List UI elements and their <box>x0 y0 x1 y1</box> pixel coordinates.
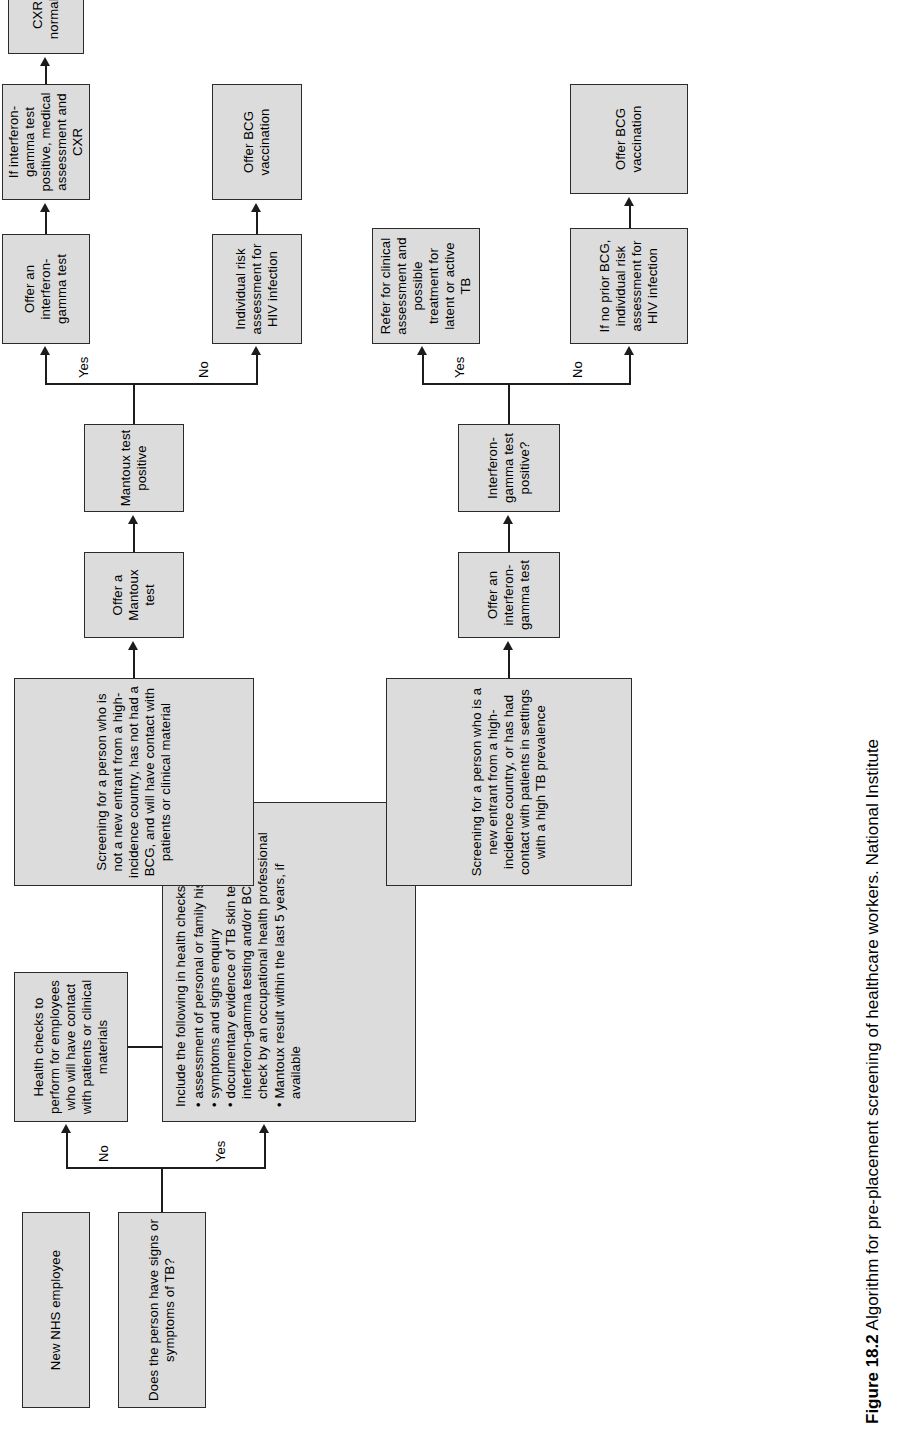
node-label: Offer BCG vaccination <box>613 89 645 189</box>
arrow-icon <box>128 515 138 524</box>
node-label: If interferon-gamma test positive, medic… <box>6 89 86 195</box>
edge-line <box>256 353 258 385</box>
edge-line <box>133 383 257 385</box>
node-label: Offer an interferon-gamma test <box>485 557 533 633</box>
node-label: Does the person have signs or symptoms o… <box>146 1217 178 1403</box>
arrow-icon <box>61 1124 71 1133</box>
node-if-no-prior-bcg: If no prior BCG, individual risk assessm… <box>570 228 688 344</box>
edge-label-yes: Yes <box>213 1139 228 1164</box>
arrow-icon <box>259 1124 269 1133</box>
arrow-icon <box>251 203 261 212</box>
arrow-icon <box>417 346 427 355</box>
edge-line <box>629 204 631 228</box>
node-label: New NHS employee <box>48 1217 64 1403</box>
edge-label-yes: Yes <box>452 355 467 380</box>
figure-caption: Figure 18.2 Algorithm for pre-placement … <box>862 24 883 1424</box>
edge-line <box>66 1131 68 1169</box>
node-label: Screening for a person who is a new entr… <box>469 683 549 881</box>
node-new-nhs-employee: New NHS employee <box>22 1212 90 1408</box>
node-offer-igra-top: Offer an interferon-gamma test <box>458 552 560 638</box>
edge-line <box>133 522 135 552</box>
node-label: Screening for a person who is not a new … <box>94 683 174 881</box>
edge-line <box>45 353 47 385</box>
node-label: CXR normal? <box>30 0 62 49</box>
figure-caption-label: Figure 18.2 <box>863 1334 882 1424</box>
arrow-icon <box>40 203 50 212</box>
node-label: Offer a Mantoux test <box>110 557 158 633</box>
edge-label-no: No <box>96 1143 111 1164</box>
node-label: Refer for clinical assessment and possib… <box>378 233 475 339</box>
arrow-icon <box>40 346 50 355</box>
arrow-icon <box>251 346 261 355</box>
node-igra-positive-question: Interferon-gamma test positive? <box>458 424 560 512</box>
node-label: Health checks to perform for employees w… <box>31 977 111 1117</box>
node-label: Offer an interferon-gamma test <box>22 239 70 339</box>
edge-line <box>422 383 509 385</box>
edge-line <box>422 353 424 385</box>
node-offer-mantoux-test: Offer a Mantoux test <box>84 552 184 638</box>
list-item: Mantoux result within the last 5 years, … <box>272 813 304 1107</box>
edge-line <box>128 1046 162 1048</box>
edge-line <box>133 648 135 678</box>
edge-line <box>508 648 510 678</box>
edge-line <box>133 384 135 424</box>
node-cxr-normal-question: CXR normal? <box>8 0 84 54</box>
flowchart: New NHS employee Does the person have si… <box>0 0 900 1442</box>
edge-line <box>508 383 630 385</box>
node-mantoux-test-positive: Mantoux test positive <box>84 424 184 512</box>
edge-line <box>256 210 258 234</box>
node-label: If no prior BCG, individual risk assessm… <box>597 233 661 339</box>
arrow-icon <box>624 197 634 206</box>
edge-line <box>161 1167 265 1169</box>
edge-line <box>629 353 631 385</box>
arrow-icon <box>503 641 513 650</box>
node-label: Individual risk assessment for HIV infec… <box>233 239 281 339</box>
arrow-icon <box>128 641 138 650</box>
node-offer-bcg-vaccination-top: Offer BCG vaccination <box>570 84 688 194</box>
arrow-icon <box>503 515 513 524</box>
node-offer-bcg-vaccination-middle: Offer BCG vaccination <box>212 84 302 200</box>
node-offer-igra-middle: Offer an interferon-gamma test <box>2 234 90 344</box>
node-refer-clinical-assessment: Refer for clinical assessment and possib… <box>372 228 480 344</box>
edge-line <box>45 64 47 84</box>
edge-line <box>508 522 510 552</box>
edge-label-yes: Yes <box>76 355 91 380</box>
edge-label-no: No <box>196 359 211 380</box>
figure-canvas: New NHS employee Does the person have si… <box>0 0 900 1442</box>
node-if-igra-positive-cxr: If interferon-gamma test positive, medic… <box>2 84 90 200</box>
node-individual-risk-hiv: Individual risk assessment for HIV infec… <box>212 234 302 344</box>
edge-line <box>264 1131 266 1169</box>
arrow-icon <box>40 57 50 66</box>
edge-line <box>161 1168 163 1212</box>
arrow-icon <box>624 346 634 355</box>
edge-line <box>66 1167 162 1169</box>
edge-line <box>45 383 134 385</box>
node-signs-symptoms-question: Does the person have signs or symptoms o… <box>118 1212 206 1408</box>
edge-line <box>45 210 47 234</box>
node-label: Interferon-gamma test positive? <box>485 429 533 507</box>
node-label: Offer BCG vaccination <box>241 89 273 195</box>
node-screening-not-new-entrant: Screening for a person who is not a new … <box>14 678 254 886</box>
figure-caption-text: Algorithm for pre-placement screening of… <box>863 739 882 1331</box>
edge-line <box>508 384 510 424</box>
node-label: Mantoux test positive <box>118 429 150 507</box>
node-screening-new-entrant: Screening for a person who is a new entr… <box>386 678 632 886</box>
edge-label-no: No <box>570 359 585 380</box>
node-health-checks: Health checks to perform for employees w… <box>14 972 128 1122</box>
